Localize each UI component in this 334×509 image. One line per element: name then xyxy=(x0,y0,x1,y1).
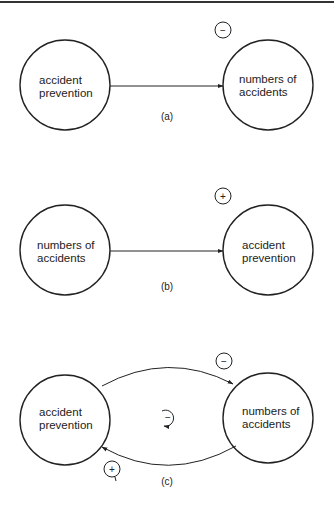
svg-text:+: + xyxy=(220,191,226,202)
panel-caption: (a) xyxy=(161,111,173,122)
node-label: prevention xyxy=(39,87,93,99)
panel-caption: (c) xyxy=(161,476,173,487)
negative-sign-icon: − xyxy=(216,353,232,369)
negative-sign-icon: − xyxy=(215,22,231,38)
node-label: prevention xyxy=(242,252,296,264)
positive-sign-icon: + xyxy=(104,461,120,481)
positive-sign-icon: + xyxy=(215,188,231,204)
panel-a: accident prevention numbers of accidents… xyxy=(20,22,313,130)
svg-text:−: − xyxy=(165,412,171,423)
node-numbers-of-accidents xyxy=(223,40,313,130)
node-label: numbers of xyxy=(239,73,297,85)
svg-text:−: − xyxy=(220,25,226,36)
causal-arrow-bottom xyxy=(102,446,236,465)
node-label: prevention xyxy=(39,419,93,431)
causal-loop-diagram: accident prevention numbers of accidents… xyxy=(0,0,334,509)
node-label: accidents xyxy=(37,252,86,264)
node-label: accidents xyxy=(239,86,288,98)
panel-b: numbers of accidents accident prevention… xyxy=(20,188,313,295)
node-label: accident xyxy=(39,74,83,86)
panel-c: accident prevention numbers of accidents… xyxy=(20,353,313,487)
balancing-loop-icon: − xyxy=(162,410,174,426)
node-label: numbers of xyxy=(242,405,300,417)
node-label: accidents xyxy=(242,418,291,430)
node-label: numbers of xyxy=(37,239,95,251)
panel-caption: (b) xyxy=(161,281,173,292)
svg-text:+: + xyxy=(109,464,115,475)
node-label: accident xyxy=(242,239,286,251)
causal-arrow-top xyxy=(102,367,233,386)
svg-text:−: − xyxy=(221,356,227,367)
node-label: accident xyxy=(39,406,83,418)
